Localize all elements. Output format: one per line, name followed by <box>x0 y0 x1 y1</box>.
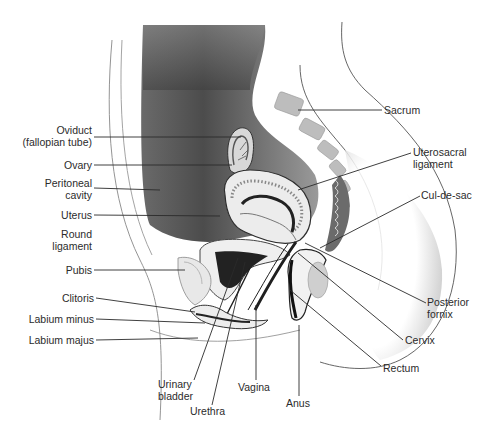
label-round-ligament: Round ligament <box>52 228 92 252</box>
label-urethra: Urethra <box>190 405 225 417</box>
label-pubis: Pubis <box>66 264 92 276</box>
rectum-wall <box>325 175 350 252</box>
buttock-shading <box>345 150 442 360</box>
label-ovary: Ovary <box>64 159 92 171</box>
label-uterosacral-ligament: Uterosacral ligament <box>413 146 467 170</box>
label-vagina: Vagina <box>238 381 270 393</box>
label-urinary-bladder: Urinary bladder <box>158 378 193 402</box>
label-posterior-fornix: Posterior fornix <box>427 296 469 320</box>
label-peritoneal-cavity: Peritoneal cavity <box>45 177 92 201</box>
label-cul-de-sac: Cul-de-sac <box>421 189 472 201</box>
external-genitalia <box>150 305 300 341</box>
label-rectum: Rectum <box>383 362 419 374</box>
label-clitoris: Clitoris <box>62 292 94 304</box>
label-anus: Anus <box>286 397 310 409</box>
label-labium-majus: Labium majus <box>29 334 94 346</box>
label-uterus: Uterus <box>61 209 92 221</box>
label-cervix: Cervix <box>405 334 435 346</box>
label-sacrum: Sacrum <box>384 104 420 116</box>
rectum <box>288 249 328 320</box>
label-labium-minus: Labium minus <box>29 313 94 325</box>
label-oviduct: Oviduct (fallopian tube) <box>23 124 92 148</box>
oviduct-ovary <box>228 128 254 174</box>
